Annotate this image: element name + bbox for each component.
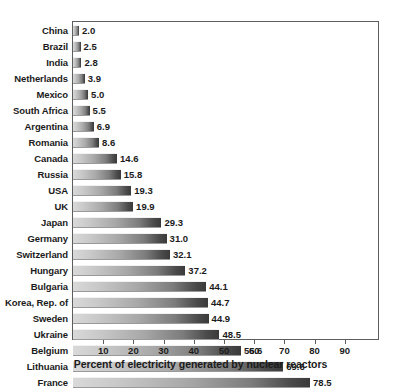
bar-value-label: 3.9 [88,73,101,85]
bar [73,25,79,36]
bar [73,169,121,180]
bar-value-label: 5.0 [91,89,104,101]
bar-rows: China2.0Brazil2.5India2.8Netherlands3.9M… [0,21,401,340]
bar-wrapper: 44.9 [73,313,209,324]
bar-wrapper: 32.1 [73,249,170,260]
bar-row: Russia15.8 [0,167,401,183]
category-label: Sweden [0,312,68,326]
bar-wrapper: 15.8 [73,169,121,180]
bar-row: Sweden44.9 [0,311,401,327]
category-label: Mexico [0,88,68,102]
category-label: Hungary [0,264,68,278]
bar-value-label: 37.2 [188,265,207,277]
bar [73,73,85,84]
bar-wrapper: 37.2 [73,265,185,276]
bar-wrapper: 14.6 [73,153,117,164]
bar-value-label: 44.7 [211,297,230,309]
bar-value-label: 78.5 [313,377,332,389]
bar-row: India2.8 [0,55,401,71]
bar-value-label: 14.6 [120,153,139,165]
bar-value-label: 19.9 [136,201,155,213]
category-label: China [0,24,68,38]
bar [73,57,81,68]
bar-wrapper: 19.3 [73,185,131,196]
bar-row: Mexico5.0 [0,87,401,103]
bar-wrapper: 29.3 [73,217,161,228]
bar [73,41,81,52]
bar-wrapper: 44.7 [73,297,208,308]
bar-row: Japan29.3 [0,215,401,231]
category-label: Brazil [0,40,68,54]
bar [73,233,167,244]
bar [73,249,170,260]
x-axis-tick-label: 70 [269,344,299,357]
bar-row: Canada14.6 [0,151,401,167]
bar-wrapper: 5.5 [73,105,90,116]
x-axis-tick-label: 40 [179,344,209,357]
bar-value-label: 29.3 [164,217,183,229]
x-axis-tick-label: 50 [209,344,239,357]
category-label: France [0,376,68,390]
bar-wrapper: 48.5 [73,329,219,340]
bar-value-label: 44.1 [209,281,228,293]
bar-row: China2.0 [0,23,401,39]
bar-value-label: 19.3 [134,185,153,197]
bar-wrapper: 6.9 [73,121,94,132]
bar-wrapper: 78.5 [73,377,310,388]
category-label: Bulgaria [0,280,68,294]
bar [73,137,99,148]
bar-wrapper: 2.8 [73,57,81,68]
bar-value-label: 15.8 [124,169,143,181]
bar-row: Argentina6.9 [0,119,401,135]
bar [73,265,185,276]
bar [73,105,90,116]
category-label: Netherlands [0,72,68,86]
bar-wrapper: 8.6 [73,137,99,148]
bar [73,121,94,132]
category-label: Argentina [0,120,68,134]
bar-row: Korea, Rep. of44.7 [0,295,401,311]
bar-wrapper: 2.5 [73,41,81,52]
bar-row: Hungary37.2 [0,263,401,279]
category-label: South Africa [0,104,68,118]
bar-row: South Africa5.5 [0,103,401,119]
bar-wrapper: 2.0 [73,25,79,36]
x-axis-tick-label: 30 [149,344,179,357]
x-axis-tick-label: 60 [239,344,269,357]
bar [73,313,209,324]
bar [73,153,117,164]
bar [73,201,133,212]
category-label: USA [0,184,68,198]
bar-wrapper: 44.1 [73,281,206,292]
bar [73,89,88,100]
category-label: Canada [0,152,68,166]
bar [73,297,208,308]
bar-row: UK19.9 [0,199,401,215]
bar-value-label: 2.5 [84,41,97,53]
category-label: India [0,56,68,70]
category-label: Germany [0,232,68,246]
bar-wrapper: 3.9 [73,73,85,84]
bar-wrapper: 19.9 [73,201,133,212]
bar-row: Switzerland32.1 [0,247,401,263]
bar-wrapper: 5.0 [73,89,88,100]
bar-row: Brazil2.5 [0,39,401,55]
bar-wrapper: 31.0 [73,233,167,244]
bar-value-label: 6.9 [97,121,110,133]
x-axis-tick-label: 90 [330,344,360,357]
bar-row: Netherlands3.9 [0,71,401,87]
category-label: Romania [0,136,68,150]
bar-value-label: 2.0 [82,25,95,37]
x-axis-tick-label: 80 [300,344,330,357]
category-label: Russia [0,168,68,182]
bar-value-label: 5.5 [93,105,106,117]
bar-row: France78.5 [0,375,401,391]
bar-value-label: 2.8 [84,57,97,69]
category-label: UK [0,200,68,214]
bar-row: Romania8.6 [0,135,401,151]
category-label: Japan [0,216,68,230]
bar [73,185,131,196]
bar-value-label: 32.1 [173,249,192,261]
category-label: Switzerland [0,248,68,262]
